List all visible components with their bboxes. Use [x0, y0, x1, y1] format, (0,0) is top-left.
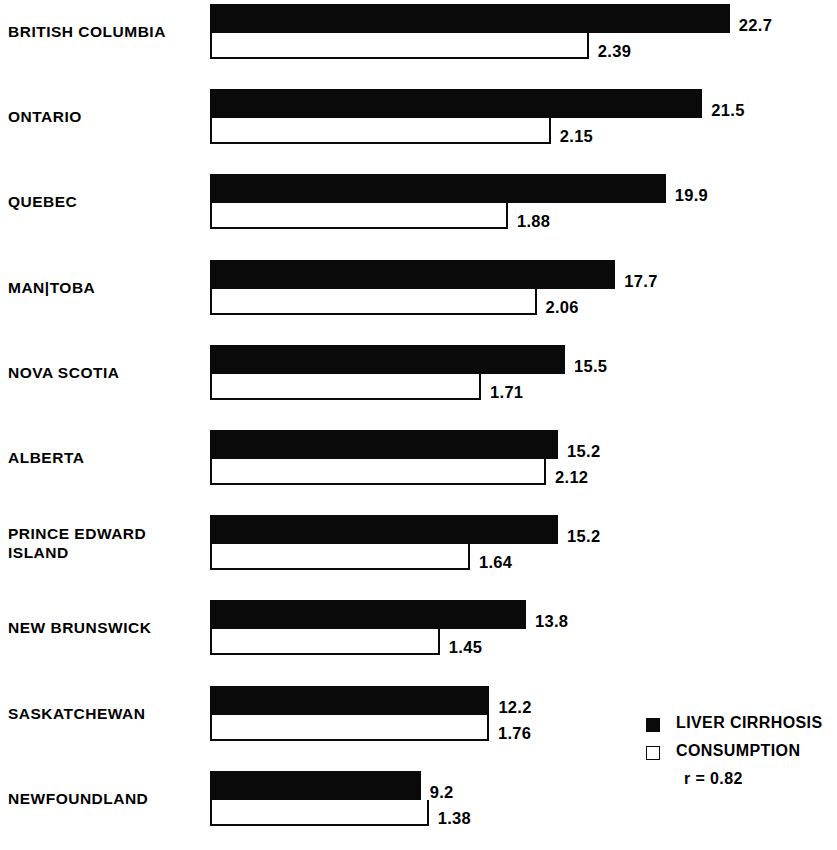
- bar-consumption: [210, 544, 470, 570]
- value-label-consumption: 2.12: [555, 468, 588, 487]
- bar-consumption: [210, 374, 481, 400]
- legend-item-consumption: CONSUMPTION: [646, 740, 836, 768]
- legend-swatch-filled-icon: [646, 718, 660, 732]
- row-label: BRITISH COLUMBIA: [8, 22, 166, 41]
- legend-label-liver-cirrhosis: LIVER CIRRHOSIS: [676, 714, 822, 732]
- value-label-consumption: 1.45: [449, 638, 482, 657]
- chart-row: MAN|TOBA17.72.06: [0, 260, 837, 315]
- value-label-liver-cirrhosis: 15.5: [574, 357, 607, 376]
- bar-liver-cirrhosis: [210, 686, 489, 715]
- value-label-liver-cirrhosis: 13.8: [535, 612, 568, 631]
- bar-liver-cirrhosis: [210, 89, 702, 118]
- value-label-consumption: 1.88: [517, 212, 550, 231]
- value-label-liver-cirrhosis: 21.5: [711, 101, 744, 120]
- bar-liver-cirrhosis: [210, 430, 558, 459]
- bar-consumption: [210, 118, 551, 144]
- bar-liver-cirrhosis: [210, 4, 730, 33]
- value-label-liver-cirrhosis: 12.2: [498, 698, 531, 717]
- chart-row: QUEBEC19.91.88: [0, 174, 837, 229]
- legend-item-liver-cirrhosis: LIVER CIRRHOSIS: [646, 712, 836, 740]
- bar-consumption: [210, 800, 429, 826]
- chart-row: NOVA SCOTIA15.51.71: [0, 345, 837, 400]
- chart-row: NEW BRUNSWICK13.81.45: [0, 600, 837, 655]
- value-label-liver-cirrhosis: 9.2: [430, 783, 454, 802]
- bar-liver-cirrhosis: [210, 260, 615, 289]
- row-label: ONTARIO: [8, 107, 82, 126]
- legend-swatch-outline-icon: [646, 746, 660, 760]
- bar-consumption: [210, 715, 489, 741]
- chart-row: PRINCE EDWARD ISLAND15.21.64: [0, 515, 837, 570]
- value-label-consumption: 2.15: [560, 127, 593, 146]
- chart-row: ALBERTA15.22.12: [0, 430, 837, 485]
- value-label-liver-cirrhosis: 15.2: [567, 442, 600, 461]
- value-label-consumption: 1.71: [490, 383, 523, 402]
- bar-consumption: [210, 289, 537, 315]
- bar-consumption: [210, 459, 546, 485]
- row-label: QUEBEC: [8, 192, 77, 211]
- value-label-consumption: 1.38: [438, 809, 471, 828]
- bar-liver-cirrhosis: [210, 515, 558, 544]
- chart-legend: LIVER CIRRHOSIS CONSUMPTION r = 0.82: [646, 712, 836, 768]
- row-label: NOVA SCOTIA: [8, 363, 119, 382]
- row-label: NEW BRUNSWICK: [8, 618, 151, 637]
- bar-liver-cirrhosis: [210, 174, 666, 203]
- correlation-note: r = 0.82: [684, 770, 743, 788]
- value-label-liver-cirrhosis: 17.7: [624, 272, 657, 291]
- row-label: MAN|TOBA: [8, 278, 95, 297]
- bar-liver-cirrhosis: [210, 600, 526, 629]
- value-label-liver-cirrhosis: 19.9: [675, 186, 708, 205]
- value-label-liver-cirrhosis: 15.2: [567, 527, 600, 546]
- bar-liver-cirrhosis: [210, 771, 421, 800]
- bar-consumption: [210, 629, 440, 655]
- legend-label-consumption: CONSUMPTION: [676, 742, 800, 760]
- row-label: SASKATCHEWAN: [8, 704, 145, 723]
- bar-consumption: [210, 33, 589, 59]
- row-label: PRINCE EDWARD ISLAND: [8, 524, 146, 562]
- row-label: ALBERTA: [8, 448, 84, 467]
- value-label-liver-cirrhosis: 22.7: [739, 16, 772, 35]
- row-label: NEWFOUNDLAND: [8, 789, 148, 808]
- value-label-consumption: 1.76: [498, 724, 531, 743]
- bar-chart: BRITISH COLUMBIA22.72.39ONTARIO21.52.15Q…: [0, 0, 837, 850]
- bar-consumption: [210, 203, 508, 229]
- bar-liver-cirrhosis: [210, 345, 565, 374]
- value-label-consumption: 2.06: [546, 298, 579, 317]
- value-label-consumption: 2.39: [598, 42, 631, 61]
- chart-row: ONTARIO21.52.15: [0, 89, 837, 144]
- value-label-consumption: 1.64: [479, 553, 512, 572]
- chart-row: BRITISH COLUMBIA22.72.39: [0, 4, 837, 59]
